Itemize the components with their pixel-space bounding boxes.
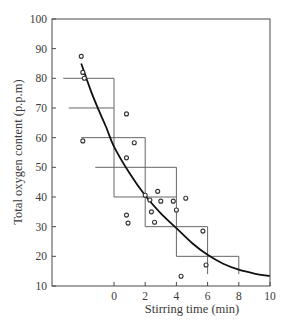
- fitted-curve: [81, 63, 270, 276]
- y-tick-label: 70: [36, 102, 48, 114]
- data-point-marker: [174, 208, 178, 212]
- plot-frame: [52, 19, 270, 286]
- x-tick-label: 0: [111, 290, 117, 302]
- x-tick-label: 8: [236, 290, 242, 302]
- data-point-marker: [81, 70, 85, 74]
- data-point-marker: [184, 196, 188, 200]
- data-point-marker: [153, 220, 157, 224]
- y-tick-label: 40: [36, 191, 48, 203]
- y-tick-label: 20: [36, 250, 48, 262]
- decay-curve-line: [81, 63, 270, 276]
- y-tick-label: 10: [36, 280, 48, 292]
- y-tick-label: 100: [30, 13, 48, 25]
- data-point-marker: [132, 141, 136, 145]
- x-tick-label: 10: [264, 290, 276, 302]
- axes: [52, 19, 270, 286]
- x-axis-label: Stirring time (min): [145, 302, 239, 316]
- data-point-marker: [171, 199, 175, 203]
- data-point-marker: [79, 54, 83, 58]
- data-point-marker: [82, 76, 86, 80]
- oxygen-content-chart: 1020304050607080901000246810 Stirring ti…: [0, 0, 287, 329]
- y-tick-label: 80: [36, 72, 48, 84]
- data-point-marker: [81, 139, 85, 143]
- y-tick-label: 60: [36, 132, 48, 144]
- data-point-marker: [204, 263, 208, 267]
- data-point-marker: [156, 189, 160, 193]
- y-tick-label: 90: [36, 43, 48, 55]
- data-point-marker: [179, 274, 183, 278]
- data-point-marker: [124, 112, 128, 116]
- y-tick-label: 30: [36, 221, 48, 233]
- step-lines: [63, 78, 239, 274]
- data-point-marker: [159, 199, 163, 203]
- y-axis-label: Total oxygen content (p.p.m): [11, 79, 25, 224]
- data-point-marker: [124, 156, 128, 160]
- x-tick-label: 2: [142, 290, 148, 302]
- x-tick-label: 4: [174, 290, 180, 302]
- data-point-marker: [149, 210, 153, 214]
- data-point-marker: [201, 229, 205, 233]
- y-tick-label: 50: [36, 161, 48, 173]
- data-points: [79, 54, 208, 278]
- data-point-marker: [148, 198, 152, 202]
- data-point-marker: [143, 193, 147, 197]
- data-point-marker: [126, 221, 130, 225]
- data-point-marker: [124, 213, 128, 217]
- x-tick-label: 6: [205, 290, 211, 302]
